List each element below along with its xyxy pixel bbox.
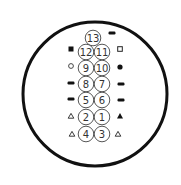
pin-12: 12 xyxy=(78,44,94,60)
pin-13: 13 xyxy=(85,30,101,46)
triangle-open-marker-icon xyxy=(115,131,121,136)
pin-label: 12 xyxy=(80,47,93,58)
pin-label: 3 xyxy=(99,129,105,140)
bar-marker-icon xyxy=(109,32,116,35)
bar-marker-icon xyxy=(118,99,125,102)
pin-label: 7 xyxy=(99,79,105,90)
connector-pinout-diagram: 13121191087562143 xyxy=(0,0,181,185)
pin-10: 10 xyxy=(94,60,110,76)
triangle-open-marker-icon xyxy=(69,131,75,136)
triangle-filled-marker-icon xyxy=(117,113,123,118)
pin-label: 10 xyxy=(96,63,109,74)
pin-1: 1 xyxy=(94,109,110,125)
pin-group: 13121191087562143 xyxy=(78,30,110,142)
square-filled-marker-icon xyxy=(69,47,74,52)
pin-label: 8 xyxy=(83,79,89,90)
circle-filled-marker-icon xyxy=(117,64,122,69)
pin-label: 11 xyxy=(96,47,109,58)
triangle-open-marker-icon xyxy=(68,113,74,118)
pin-label: 4 xyxy=(83,129,89,140)
pin-2: 2 xyxy=(78,109,94,125)
bar-marker-icon xyxy=(68,82,75,85)
pin-label: 9 xyxy=(83,63,89,74)
pin-label: 13 xyxy=(87,33,100,44)
circle-open-marker-icon xyxy=(69,64,74,69)
pin-label: 2 xyxy=(83,112,89,123)
pin-8: 8 xyxy=(78,76,94,92)
square-open-marker-icon xyxy=(118,47,123,52)
pin-11: 11 xyxy=(94,44,110,60)
pin-5: 5 xyxy=(78,92,94,108)
pin-4: 4 xyxy=(78,126,94,142)
pin-label: 1 xyxy=(99,112,105,123)
pin-9: 9 xyxy=(78,60,94,76)
pin-3: 3 xyxy=(94,126,110,142)
pin-7: 7 xyxy=(94,76,110,92)
pin-6: 6 xyxy=(94,92,110,108)
bar-marker-icon xyxy=(68,98,75,101)
bar-marker-icon xyxy=(118,83,125,86)
pin-label: 5 xyxy=(83,95,89,106)
pin-label: 6 xyxy=(99,95,105,106)
